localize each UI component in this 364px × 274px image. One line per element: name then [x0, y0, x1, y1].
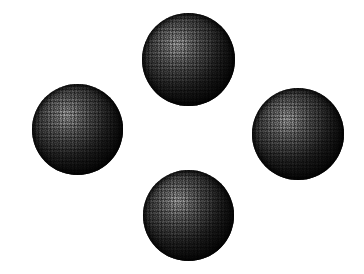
- image-canvas: [0, 0, 364, 274]
- sphere-top: [142, 13, 235, 106]
- sphere-bottom: [143, 170, 234, 261]
- sphere-right: [252, 88, 344, 180]
- sphere-left: [32, 84, 123, 175]
- sphere-group: [0, 0, 364, 274]
